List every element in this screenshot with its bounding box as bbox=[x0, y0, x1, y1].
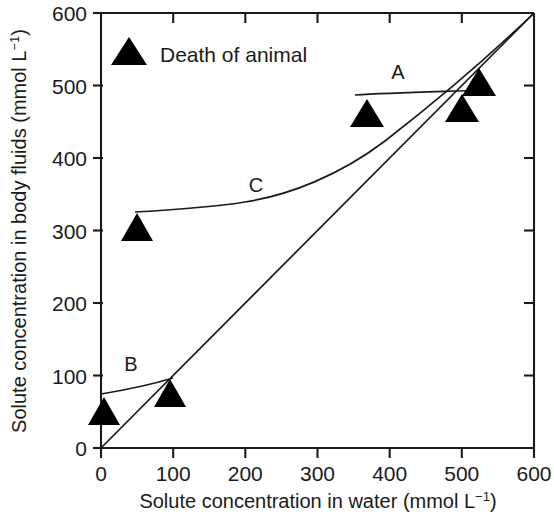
curve-label-c: C bbox=[249, 174, 263, 196]
svg-text:Solute concentration in body f: Solute concentration in body fluids (mmo… bbox=[7, 29, 30, 433]
chart-figure: 0 100 200 300 400 500 600 0 100 200 300 … bbox=[0, 0, 554, 514]
svg-text:Solute concentration in water: Solute concentration in water (mmol L−1) bbox=[139, 489, 496, 512]
y-axis-title-tail: ) bbox=[8, 29, 30, 36]
curve-label-b: B bbox=[124, 353, 137, 375]
curve-label-a: A bbox=[391, 61, 405, 83]
x-axis-title-tail: ) bbox=[490, 490, 497, 512]
x-tick-label-500: 500 bbox=[444, 462, 479, 485]
data-markers bbox=[88, 68, 496, 425]
x-tick-label-600: 600 bbox=[516, 462, 551, 485]
x-axis-ticks bbox=[101, 448, 534, 458]
y-axis-title: Solute concentration in body fluids (mmo… bbox=[7, 29, 30, 433]
data-point-marker bbox=[462, 68, 496, 96]
legend-label-death-of-animal: Death of animal bbox=[160, 43, 307, 66]
y-tick-label-500: 500 bbox=[52, 75, 87, 98]
x-tick-label-100: 100 bbox=[156, 462, 191, 485]
y-tick-label-400: 400 bbox=[52, 147, 87, 170]
x-axis-title-main: Solute concentration in water (mmol L bbox=[139, 490, 475, 512]
x-axis-title-superscript: −1 bbox=[475, 489, 490, 504]
data-point-marker bbox=[350, 99, 384, 127]
data-point-marker bbox=[154, 379, 186, 407]
x-tick-labels: 0 100 200 300 400 500 600 bbox=[95, 462, 551, 485]
y-tick-label-100: 100 bbox=[52, 365, 87, 388]
x-tick-label-300: 300 bbox=[300, 462, 335, 485]
y-tick-label-600: 600 bbox=[52, 2, 87, 25]
y-tick-label-300: 300 bbox=[52, 220, 87, 243]
chart-svg: 0 100 200 300 400 500 600 0 100 200 300 … bbox=[0, 0, 554, 514]
right-axis-ticks bbox=[524, 86, 534, 376]
y-tick-label-200: 200 bbox=[52, 292, 87, 315]
x-axis-title: Solute concentration in water (mmol L−1) bbox=[139, 489, 496, 512]
top-axis-ticks bbox=[173, 13, 462, 23]
data-point-marker bbox=[88, 397, 120, 425]
x-tick-label-400: 400 bbox=[372, 462, 407, 485]
x-tick-label-0: 0 bbox=[95, 462, 107, 485]
y-axis-title-main: Solute concentration in body fluids (mmo… bbox=[8, 51, 30, 433]
isosmotic-line bbox=[101, 13, 534, 448]
triangle-up-marker-icon bbox=[111, 37, 147, 65]
y-tick-label-0: 0 bbox=[75, 437, 87, 460]
x-tick-label-200: 200 bbox=[228, 462, 263, 485]
y-axis-title-superscript: −1 bbox=[7, 36, 22, 51]
data-point-marker bbox=[121, 213, 153, 241]
legend: Death of animal bbox=[111, 37, 307, 66]
y-tick-labels: 0 100 200 300 400 500 600 bbox=[52, 2, 87, 460]
